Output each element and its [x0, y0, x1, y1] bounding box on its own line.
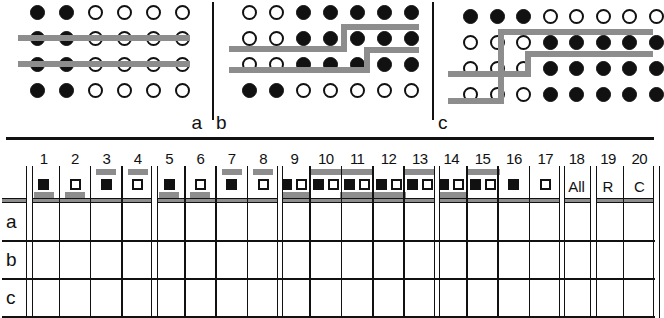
dot-open — [377, 83, 392, 98]
table-cell[interactable] — [530, 250, 561, 278]
bar-above-4 — [128, 169, 148, 175]
table-cell[interactable] — [624, 288, 655, 316]
square-open-14 — [453, 179, 464, 190]
dot-filled — [596, 61, 611, 76]
dot-filled — [323, 5, 338, 20]
table-cell[interactable] — [373, 288, 404, 316]
dot-open — [146, 83, 161, 98]
table-cell[interactable] — [310, 250, 341, 278]
dot-filled — [543, 87, 558, 102]
dot-filled — [622, 87, 637, 102]
table-cell[interactable] — [561, 250, 592, 278]
table-cell[interactable] — [342, 212, 373, 240]
table-cell[interactable] — [561, 288, 592, 316]
table-cell[interactable] — [530, 288, 561, 316]
dot-filled — [59, 83, 74, 98]
table-cell[interactable] — [467, 212, 498, 240]
square-filled-7 — [226, 179, 237, 190]
table-cell[interactable] — [279, 250, 310, 278]
row-label-b: b — [6, 249, 17, 271]
response-coding-table: 1234567891011121314151617181920AllRCabc — [0, 150, 661, 316]
dot-open — [146, 5, 161, 20]
table-cell[interactable] — [498, 212, 529, 240]
square-filled-15 — [470, 179, 481, 190]
dot-filled — [404, 5, 419, 20]
column-header-2: 2 — [59, 150, 90, 167]
table-cell[interactable] — [404, 212, 435, 240]
table-cell[interactable] — [373, 212, 404, 240]
table-cell[interactable] — [28, 212, 59, 240]
table-cell[interactable] — [279, 212, 310, 240]
table-cell[interactable] — [436, 212, 467, 240]
table-cell[interactable] — [436, 288, 467, 316]
table-cell[interactable] — [404, 250, 435, 278]
table-cell[interactable] — [310, 288, 341, 316]
table-cell[interactable] — [59, 250, 90, 278]
row-label-a: a — [6, 211, 17, 233]
table-cell[interactable] — [498, 288, 529, 316]
table-cell[interactable] — [91, 212, 122, 240]
dot-filled — [350, 31, 365, 46]
table-cell[interactable] — [185, 250, 216, 278]
symbol-text-20: C — [624, 178, 655, 195]
dot-pattern-panels: a b c — [0, 0, 661, 140]
table-cell[interactable] — [247, 288, 278, 316]
table-cell[interactable] — [59, 212, 90, 240]
table-cell[interactable] — [373, 250, 404, 278]
square-open-4 — [132, 179, 143, 190]
table-cell[interactable] — [624, 250, 655, 278]
dot-open — [175, 83, 190, 98]
panel-b-label: b — [216, 112, 227, 134]
table-cell[interactable] — [247, 212, 278, 240]
table-cell[interactable] — [122, 212, 153, 240]
table-cell[interactable] — [530, 212, 561, 240]
table-cell[interactable] — [185, 212, 216, 240]
panel-a-label: a — [191, 112, 202, 134]
table-cell[interactable] — [91, 288, 122, 316]
table-cell[interactable] — [342, 250, 373, 278]
table-cell[interactable] — [91, 250, 122, 278]
dot-filled — [516, 9, 531, 24]
column-header-13: 13 — [404, 150, 435, 167]
row-divider-3 — [2, 316, 655, 318]
table-cell[interactable] — [153, 288, 184, 316]
square-filled-3 — [101, 179, 112, 190]
table-cell[interactable] — [436, 250, 467, 278]
table-cell[interactable] — [592, 288, 623, 316]
dot-filled — [377, 57, 392, 72]
table-cell[interactable] — [122, 250, 153, 278]
table-cell[interactable] — [279, 288, 310, 316]
table-cell[interactable] — [404, 288, 435, 316]
dot-open — [404, 83, 419, 98]
table-cell[interactable] — [216, 250, 247, 278]
table-cell[interactable] — [28, 288, 59, 316]
table-cell[interactable] — [498, 250, 529, 278]
table-cell[interactable] — [592, 250, 623, 278]
table-cell[interactable] — [153, 250, 184, 278]
table-cell[interactable] — [467, 288, 498, 316]
table-cell[interactable] — [28, 250, 59, 278]
table-cell[interactable] — [59, 288, 90, 316]
dot-filled — [296, 5, 311, 20]
column-header-12: 12 — [373, 150, 404, 167]
dot-filled — [30, 5, 45, 20]
panel-c-line-1-step — [498, 29, 504, 104]
dot-filled — [242, 83, 257, 98]
dot-open — [569, 9, 584, 24]
table-cell[interactable] — [216, 288, 247, 316]
table-cell[interactable] — [624, 212, 655, 240]
table-cell[interactable] — [561, 212, 592, 240]
table-cell[interactable] — [153, 212, 184, 240]
table-cell[interactable] — [592, 212, 623, 240]
dot-open — [296, 83, 311, 98]
panel-c-line-2-left — [448, 71, 531, 77]
table-cell[interactable] — [216, 212, 247, 240]
square-filled-1 — [38, 179, 49, 190]
dot-open — [649, 9, 664, 24]
table-cell[interactable] — [247, 250, 278, 278]
table-cell[interactable] — [467, 250, 498, 278]
table-cell[interactable] — [342, 288, 373, 316]
table-cell[interactable] — [310, 212, 341, 240]
table-cell[interactable] — [122, 288, 153, 316]
table-cell[interactable] — [185, 288, 216, 316]
